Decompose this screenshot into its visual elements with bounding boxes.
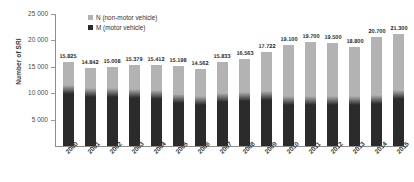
bar-segment-blend-2014 <box>371 95 382 104</box>
bar-value-label-2000: 15.825 <box>59 53 76 59</box>
bar-segment-non-motor-2012[interactable] <box>327 43 338 100</box>
bar-segment-motor-2013[interactable] <box>349 100 360 146</box>
bar-value-label-2011: 19.700 <box>302 33 319 39</box>
bar-2013[interactable]: 18.800 <box>349 47 360 146</box>
bar-2014[interactable]: 20.700 <box>371 37 382 146</box>
bar-segment-motor-2000[interactable] <box>63 90 74 146</box>
bar-segment-non-motor-2014[interactable] <box>371 37 382 100</box>
bar-value-label-2002: 15.008 <box>104 58 121 64</box>
bar-segment-motor-2015[interactable] <box>393 94 404 146</box>
bar-segment-motor-2009[interactable] <box>261 96 272 146</box>
bar-segment-motor-2012[interactable] <box>327 100 338 146</box>
bar-2009[interactable]: 17.722 <box>261 52 272 146</box>
bar-segment-motor-2006[interactable] <box>195 101 206 146</box>
plot-area: 15.82514.84215.00815.37915.41215.19814.5… <box>55 14 408 146</box>
bar-segment-blend-2004 <box>151 90 162 99</box>
bar-segment-blend-2012 <box>327 96 338 105</box>
bar-segment-blend-2005 <box>173 94 184 103</box>
bar-segment-blend-2009 <box>261 91 272 100</box>
bar-segment-blend-2013 <box>349 96 360 105</box>
bar-segment-motor-2004[interactable] <box>151 95 162 146</box>
bar-value-label-2014: 20.700 <box>368 28 385 34</box>
bar-segment-motor-2002[interactable] <box>107 93 118 146</box>
bar-value-label-2013: 18.800 <box>346 38 363 44</box>
bar-segment-blend-2015 <box>393 90 404 99</box>
bar-2007[interactable]: 15.833 <box>217 62 228 146</box>
bar-segment-blend-2002 <box>107 88 118 97</box>
bar-segment-blend-2008 <box>239 92 250 101</box>
bar-2005[interactable]: 15.198 <box>173 66 184 146</box>
bar-2008[interactable]: 16.563 <box>239 59 250 146</box>
bar-value-label-2007: 15.833 <box>214 53 231 59</box>
bar-value-label-2012: 19.500 <box>324 34 341 40</box>
bar-2002[interactable]: 15.008 <box>107 67 118 146</box>
bar-value-label-2008: 16.563 <box>236 49 253 55</box>
bar-segment-motor-2014[interactable] <box>371 100 382 146</box>
bar-segment-blend-2011 <box>305 96 316 105</box>
bar-segment-motor-2011[interactable] <box>305 100 316 146</box>
bar-segment-blend-2010 <box>283 96 294 105</box>
bar-segment-non-motor-2011[interactable] <box>305 42 316 100</box>
bar-segment-blend-2001 <box>85 88 96 97</box>
bar-2006[interactable]: 14.562 <box>195 69 206 146</box>
bar-segment-motor-2010[interactable] <box>283 100 294 146</box>
y-axis-tick-15000: 15 000 <box>8 63 48 70</box>
y-axis-tick-20000: 20 000 <box>8 36 48 43</box>
bar-segment-non-motor-2009[interactable] <box>261 52 272 95</box>
bar-2010[interactable]: 19.100 <box>283 45 294 146</box>
bar-2012[interactable]: 19.500 <box>327 43 338 146</box>
bar-2011[interactable]: 19.700 <box>305 42 316 146</box>
bar-value-label-2009: 17.722 <box>258 43 275 49</box>
bar-segment-motor-2008[interactable] <box>239 96 250 146</box>
y-axis-tick-10000: 10 000 <box>8 89 48 96</box>
bar-value-label-2005: 15.198 <box>170 57 187 63</box>
bar-value-label-2003: 15.379 <box>126 56 143 62</box>
bar-value-label-2010: 19.100 <box>280 36 297 42</box>
y-axis-tick-25000: 25 000 <box>8 10 48 17</box>
bar-value-label-2006: 14.562 <box>192 60 209 66</box>
bar-2003[interactable]: 15.379 <box>129 65 140 146</box>
bar-segment-blend-2007 <box>217 93 228 102</box>
bar-segment-blend-2003 <box>129 89 140 98</box>
bar-segment-blend-2000 <box>63 85 74 94</box>
bar-segment-non-motor-2008[interactable] <box>239 59 250 97</box>
bar-segment-motor-2007[interactable] <box>217 97 228 146</box>
bar-segment-non-motor-2015[interactable] <box>393 34 404 94</box>
bar-2015[interactable]: 21.300 <box>393 34 404 146</box>
bar-value-label-2004: 15.412 <box>148 56 165 62</box>
bar-2000[interactable]: 15.825 <box>63 62 74 146</box>
bar-segment-non-motor-2013[interactable] <box>349 47 360 100</box>
stacked-bar-chart: Number of SRI 5 00010 00015 00020 00025 … <box>0 0 414 182</box>
bar-segment-motor-2003[interactable] <box>129 93 140 146</box>
bar-value-label-2001: 14.842 <box>82 59 99 65</box>
bar-segment-blend-2006 <box>195 96 206 105</box>
bar-value-label-2015: 21.300 <box>390 24 407 30</box>
bar-segment-motor-2001[interactable] <box>85 92 96 146</box>
bar-2004[interactable]: 15.412 <box>151 65 162 146</box>
bar-2001[interactable]: 14.842 <box>85 68 96 146</box>
bar-segment-non-motor-2010[interactable] <box>283 45 294 100</box>
bar-segment-motor-2005[interactable] <box>173 99 184 146</box>
y-axis-tick-5000: 5 000 <box>8 116 48 123</box>
